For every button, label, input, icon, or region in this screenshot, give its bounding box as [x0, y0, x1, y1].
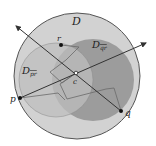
label-point-q: q [125, 108, 131, 118]
label-point-p: p [10, 94, 16, 104]
label-point-c: c [73, 78, 77, 86]
point-p [18, 96, 22, 100]
point-q [119, 109, 123, 113]
disk-pr [19, 43, 93, 117]
point-c [74, 71, 78, 75]
geometric-diagram: D Dqr Dpr r c p q [0, 0, 156, 146]
point-r [59, 43, 63, 47]
label-outer-disk: D [71, 15, 81, 28]
